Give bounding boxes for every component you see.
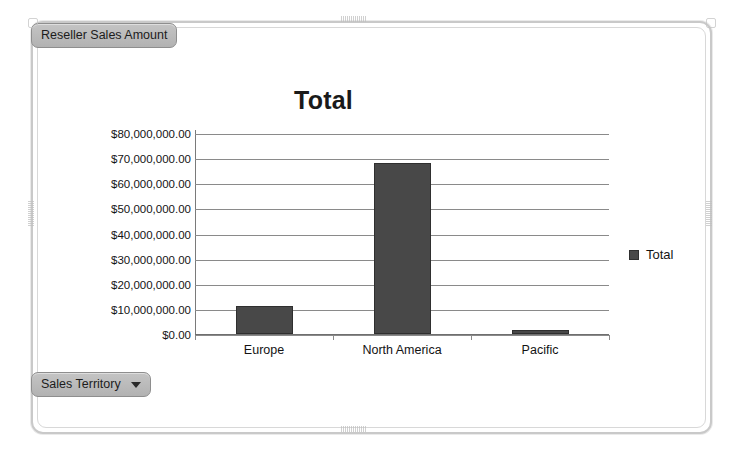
chart-legend: Total xyxy=(629,247,673,262)
x-axis-tick xyxy=(609,335,610,340)
x-axis-label-north-america: North America xyxy=(362,343,441,357)
resize-handle-top-right[interactable] xyxy=(706,18,716,28)
y-axis-tick-label: $40,000,000.00 xyxy=(111,229,191,241)
y-axis-labels: $0.00$10,000,000.00$20,000,000.00$30,000… xyxy=(59,134,191,335)
resize-handle-bottom[interactable] xyxy=(341,426,367,432)
y-axis-tick-label: $50,000,000.00 xyxy=(111,203,191,215)
y-axis-tick-label: $20,000,000.00 xyxy=(111,279,191,291)
chart-title: Total xyxy=(33,86,710,115)
bar-north-america[interactable] xyxy=(374,163,431,334)
chart-plot-container: Total $0.00$10,000,000.00$20,000,000.00$… xyxy=(33,23,710,432)
y-axis-tick-label: $70,000,000.00 xyxy=(111,153,191,165)
y-axis-tick-label: $80,000,000.00 xyxy=(111,128,191,140)
x-axis-tick xyxy=(333,335,334,340)
plot-area xyxy=(195,134,609,335)
y-axis-tick-label: $30,000,000.00 xyxy=(111,254,191,266)
gridline xyxy=(195,134,609,135)
x-axis-tick xyxy=(471,335,472,340)
x-axis-label-pacific: Pacific xyxy=(522,343,559,357)
gridline xyxy=(195,159,609,160)
bar-pacific[interactable] xyxy=(512,330,569,334)
bar-europe[interactable] xyxy=(236,306,293,334)
resize-handle-top[interactable] xyxy=(341,16,367,22)
filter-button-label: Sales Territory xyxy=(41,378,121,391)
x-axis-labels: EuropeNorth AmericaPacific xyxy=(195,343,609,361)
legend-swatch-total xyxy=(629,250,639,260)
resize-handle-left[interactable] xyxy=(28,200,34,226)
legend-label-total: Total xyxy=(646,247,673,262)
resize-handle-top-left[interactable] xyxy=(28,18,38,28)
y-axis-tick-label: $10,000,000.00 xyxy=(111,304,191,316)
y-axis-tick-label: $60,000,000.00 xyxy=(111,178,191,190)
x-axis-label-europe: Europe xyxy=(244,343,284,357)
chevron-down-icon[interactable] xyxy=(131,382,141,388)
field-button-reseller-sales-amount[interactable]: Reseller Sales Amount xyxy=(31,23,177,48)
x-axis-tick xyxy=(195,335,196,340)
filter-button-sales-territory[interactable]: Sales Territory xyxy=(31,372,151,397)
field-button-label: Reseller Sales Amount xyxy=(41,29,167,42)
resize-handle-right[interactable] xyxy=(706,200,712,226)
y-axis-tick-label: $0.00 xyxy=(162,329,191,341)
gridline xyxy=(195,335,609,336)
